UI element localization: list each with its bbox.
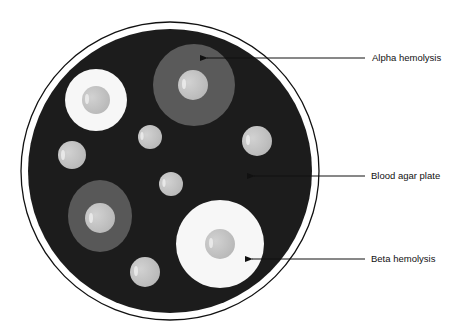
blood-agar-diagram: [0, 0, 465, 334]
beta-hemolysis-label: Beta hemolysis: [371, 253, 435, 264]
alpha-hemolysis-label: Alpha hemolysis: [372, 52, 441, 63]
blood-agar-plate-label: Blood agar plate: [371, 170, 440, 181]
